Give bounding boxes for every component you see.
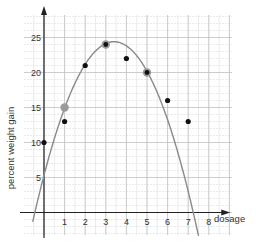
data-point — [41, 140, 46, 145]
x-tick-label: 6 — [165, 217, 170, 227]
scatter-chart: 12345678510152025 dosage percent weight … — [0, 0, 256, 242]
tick-labels: 12345678510152025 — [31, 33, 211, 227]
grid-minor — [24, 15, 232, 235]
y-axis-arrow-icon — [41, 6, 47, 15]
fit-curve — [33, 42, 199, 236]
y-tick-label: 25 — [31, 33, 41, 43]
data-point — [124, 56, 129, 61]
grid-major — [24, 15, 232, 235]
x-tick-label: 8 — [206, 217, 211, 227]
y-axis-label: percent weight gain — [5, 107, 16, 189]
data-point — [186, 119, 191, 124]
x-tick-label: 3 — [103, 217, 108, 227]
x-tick-label: 7 — [186, 217, 191, 227]
x-tick-label: 1 — [62, 217, 67, 227]
x-tick-label: 2 — [83, 217, 88, 227]
data-point — [83, 63, 88, 68]
x-tick-label: 4 — [124, 217, 129, 227]
y-tick-label: 10 — [31, 138, 41, 148]
y-tick-label: 5 — [36, 173, 41, 183]
y-tick-label: 20 — [31, 68, 41, 78]
data-point — [62, 119, 67, 124]
y-tick-label: 15 — [31, 103, 41, 113]
x-axis-label: dosage — [214, 213, 245, 224]
x-tick-label: 5 — [144, 217, 149, 227]
data-point — [165, 98, 170, 103]
highlighted-data-point — [60, 103, 68, 111]
data-point — [103, 42, 108, 47]
data-point — [145, 70, 150, 75]
